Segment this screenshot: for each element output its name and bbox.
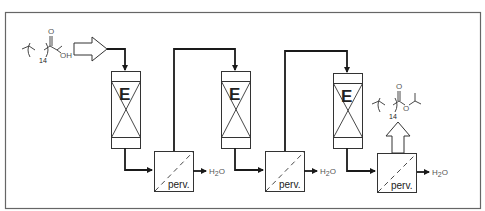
product-ester-o: O — [403, 104, 409, 113]
perv-3-water-label: H2O — [432, 168, 448, 178]
perv-1-water-label: H2O — [209, 167, 225, 177]
perv-3-label: perv. — [391, 180, 413, 191]
reactor-1-outlet-line — [125, 148, 152, 170]
feed-oh-label: OH — [60, 51, 72, 60]
perv-2-water-label: H2O — [320, 167, 336, 177]
reactor-2: E — [222, 72, 251, 149]
perv-unit-2: perv. — [266, 152, 305, 192]
product-repeat-subscript: 14 — [389, 113, 397, 120]
perv-unit-1: perv. — [155, 152, 194, 192]
reactor-3: E — [334, 74, 363, 149]
product-carbonyl-o: O — [396, 82, 402, 91]
feed-carbonyl-o: O — [48, 27, 54, 36]
reactor-1-label: E — [119, 85, 130, 104]
reactor-1: E — [112, 72, 141, 149]
product-arrow-icon — [386, 122, 410, 153]
product-molecule — [372, 91, 421, 112]
perv-unit-3: perv. — [378, 154, 417, 193]
process-flow-diagram: O OH 14 E perv. H2O E perv. — [0, 0, 485, 211]
feed-repeat-subscript: 14 — [39, 57, 47, 64]
reactor-3-label: E — [341, 87, 352, 106]
feed-molecule — [22, 36, 62, 57]
feed-arrow-icon — [74, 37, 107, 61]
reactor-3-outlet-line — [347, 148, 375, 171]
perv-2-label: perv. — [279, 179, 301, 190]
reactor-2-outlet-line — [235, 148, 263, 170]
perv-1-label: perv. — [168, 179, 190, 190]
reactor-2-label: E — [229, 85, 240, 104]
feed-line — [107, 49, 125, 70]
